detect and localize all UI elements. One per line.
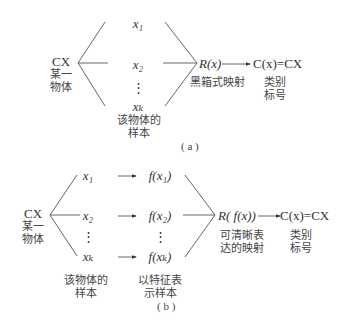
- features-label-line1: 以特征表: [134, 274, 186, 287]
- fan-in-line-bottom-b: [185, 215, 215, 257]
- features-label-line2: 示样本: [134, 287, 186, 300]
- fan-out-line-bottom-b: [50, 215, 77, 256]
- result-label-a-line2: 标号: [260, 89, 290, 102]
- caption-b: ( b ): [157, 300, 175, 313]
- fan-out-line-top-a: [78, 22, 105, 63]
- result-label-b-line2: 标号: [286, 242, 316, 255]
- fan-in-line-top-a: [165, 22, 197, 63]
- sample-x2-a: x₂: [126, 58, 150, 71]
- result-b: C(x)=CX: [280, 209, 329, 222]
- vertical-ellipsis-a: ⋮: [126, 81, 150, 94]
- mapping-a: R(x): [199, 57, 221, 70]
- feature-fxk: f(xₖ): [142, 250, 178, 263]
- object-code-a: CX: [46, 55, 76, 68]
- sample-x1-b: x₁: [76, 169, 100, 182]
- object-code-b: CX: [18, 207, 48, 220]
- fan-out-line-bottom-a: [78, 63, 105, 106]
- fan-in-line-top-b: [185, 175, 215, 215]
- sample-xk-b: xₖ: [76, 250, 100, 263]
- vertical-ellipsis-b: ⋮: [76, 230, 100, 243]
- mapping-b: R( f(x)): [218, 209, 256, 222]
- sample-x1-a: x₁: [126, 17, 150, 30]
- samples-label-a-line2: 样本: [113, 127, 165, 140]
- sample-x2-b: x₂: [76, 209, 100, 222]
- object-label-b-line1: 某一: [18, 220, 48, 233]
- object-label-a-line2: 物体: [46, 81, 76, 94]
- mapping-label-b-line2: 达的映射: [218, 242, 266, 255]
- result-label-b-line1: 类别: [286, 229, 316, 242]
- fan-out-line-top-b: [50, 175, 77, 215]
- samples-label-b-line1: 该物体的: [60, 274, 112, 287]
- feature-fx1: f(x₁): [142, 169, 178, 182]
- sample-xk-a: xₖ: [126, 100, 150, 113]
- vertical-ellipsis-features: ⋮: [142, 230, 178, 243]
- samples-label-b-line2: 样本: [60, 287, 112, 300]
- object-label-b-line2: 物体: [18, 233, 48, 246]
- result-a: C(x)=CX: [253, 57, 302, 70]
- caption-a: ( a ): [181, 140, 199, 153]
- object-label-a-line1: 某一: [46, 68, 76, 81]
- feature-fx2: f(x₂): [142, 209, 178, 222]
- samples-label-a-line1: 该物体的: [113, 114, 165, 127]
- mapping-label-b-line1: 可清晰表: [218, 229, 266, 242]
- mapping-label-a: 黑箱式映射: [190, 76, 245, 89]
- result-label-a-line1: 类别: [260, 76, 290, 89]
